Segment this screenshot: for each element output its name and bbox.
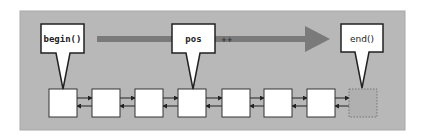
list-node xyxy=(264,89,292,117)
list-node xyxy=(49,89,77,117)
list-node xyxy=(92,89,120,117)
list-node xyxy=(222,89,250,117)
list-node xyxy=(307,89,335,117)
list-node xyxy=(178,89,206,117)
past-the-end-node xyxy=(349,89,377,117)
increment-marker: ++ xyxy=(221,36,233,44)
callout-label-pos: pos xyxy=(185,34,201,44)
list-node xyxy=(135,89,163,117)
callout-label-end: end() xyxy=(350,34,374,44)
callout-label-begin: begin() xyxy=(44,34,82,44)
linked-list-diagram: ++ begin() pos end() xyxy=(0,0,424,136)
